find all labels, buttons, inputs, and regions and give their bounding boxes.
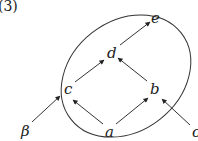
node-b: b [150, 80, 160, 98]
edge-a-c [73, 100, 103, 124]
node-o: o [192, 123, 198, 141]
node-e: e [151, 9, 160, 27]
enclosure-ellipse [37, 0, 198, 141]
node-a: a [105, 123, 114, 141]
node-beta: β [20, 122, 30, 140]
edge-d-e [120, 22, 150, 45]
node-d: d [107, 44, 117, 62]
poset-diagram: (3) e d c b a β o [0, 0, 198, 141]
edge-beta-c [32, 96, 60, 122]
diagram-canvas: (3) e d c b a β o [0, 0, 198, 141]
edge-c-d [75, 60, 104, 82]
edge-a-b [116, 98, 148, 124]
edge-b-d [118, 58, 147, 81]
diagram-label: (3) [0, 0, 18, 14]
node-c: c [64, 80, 73, 98]
